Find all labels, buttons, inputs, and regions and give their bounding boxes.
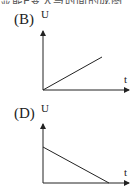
option-d-y-axis-label: U <box>41 103 49 114</box>
option-d-label: (D) <box>14 106 35 121</box>
option-b-line <box>43 57 102 90</box>
graphs-canvas <box>0 0 135 188</box>
option-d-line <box>43 147 109 183</box>
option-d-x-axis-label: t <box>124 167 127 178</box>
option-d-graph <box>43 124 129 183</box>
option-b-graph <box>43 31 129 90</box>
